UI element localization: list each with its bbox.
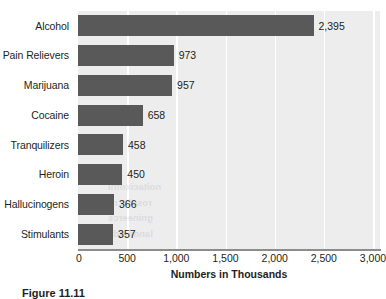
category-label-cocaine: Cocaine	[0, 100, 74, 130]
bar-value-pain-relievers: 973	[179, 50, 197, 61]
bar-series: 2,395 973 957 658 458 450	[78, 11, 380, 249]
x-tick-1500: 1,500	[212, 253, 238, 264]
bar-row: 450	[78, 160, 380, 190]
bar-row: 357	[78, 219, 380, 249]
x-tick-3000: 3,000	[360, 253, 386, 264]
bar-value-alcohol: 2,395	[319, 21, 345, 32]
bar-value-heroin: 450	[127, 169, 145, 180]
plot-area: noitacixotni rosuba ro gnineercs lanoiti…	[78, 11, 380, 249]
x-axis-title: Numbers in Thousands	[78, 269, 380, 280]
bar-value-hallucinogens: 366	[119, 199, 137, 210]
bar-marijuana[interactable]	[78, 75, 172, 96]
category-label-heroin: Heroin	[0, 160, 74, 190]
category-label-hallucinogens: Hallucinogens	[0, 190, 74, 220]
bar-value-stimulants: 357	[118, 229, 136, 240]
bar-row: 957	[78, 71, 380, 101]
x-tick-2000: 2,000	[262, 253, 288, 264]
x-tick-0: 0	[76, 253, 82, 264]
bar-heroin[interactable]	[78, 164, 122, 185]
bar-pain-relievers[interactable]	[78, 45, 174, 66]
x-tick-2500: 2,500	[311, 253, 337, 264]
bar-tranquilizers[interactable]	[78, 134, 123, 155]
figure-caption: Figure 11.11	[22, 288, 85, 299]
bar-hallucinogens[interactable]	[78, 194, 114, 215]
bar-row: 458	[78, 130, 380, 160]
category-label-tranquilizers: Tranquilizers	[0, 130, 74, 160]
x-tick-1000: 1,000	[163, 253, 189, 264]
bar-row: 658	[78, 100, 380, 130]
bar-value-cocaine: 658	[148, 110, 166, 121]
bar-stimulants[interactable]	[78, 224, 113, 245]
bar-cocaine[interactable]	[78, 105, 143, 126]
x-axis-line	[78, 249, 381, 251]
category-label-alcohol: Alcohol	[0, 11, 74, 41]
x-axis-tick-labels: 0 500 1,000 1,500 2,000 2,500 3,000	[0, 253, 386, 267]
bar-row: 2,395	[78, 11, 380, 41]
category-label-pain-relievers: Pain Relievers	[0, 41, 74, 71]
bar-row: 973	[78, 41, 380, 71]
category-axis: Alcohol Pain Relievers Marijuana Cocaine…	[0, 11, 74, 249]
category-label-marijuana: Marijuana	[0, 71, 74, 101]
bar-alcohol[interactable]	[78, 15, 314, 36]
bar-value-tranquilizers: 458	[128, 140, 146, 151]
bar-value-marijuana: 957	[177, 80, 195, 91]
x-tick-500: 500	[118, 253, 136, 264]
bar-row: 366	[78, 190, 380, 220]
category-label-stimulants: Stimulants	[0, 219, 74, 249]
